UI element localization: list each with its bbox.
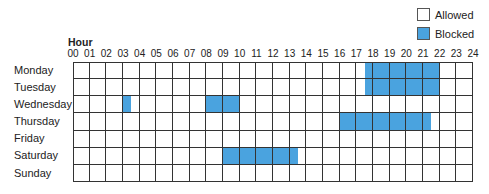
- hour-cell[interactable]: [456, 62, 473, 79]
- hour-cell[interactable]: [356, 131, 373, 148]
- hour-cell[interactable]: [373, 148, 390, 165]
- hour-cell[interactable]: [340, 113, 357, 130]
- hour-cell[interactable]: [340, 165, 357, 182]
- hour-cell[interactable]: [390, 79, 407, 96]
- hour-cell[interactable]: [256, 96, 273, 113]
- hour-cell[interactable]: [90, 148, 107, 165]
- hour-cell[interactable]: [256, 113, 273, 130]
- hour-cell[interactable]: [456, 79, 473, 96]
- hour-cell[interactable]: [240, 96, 257, 113]
- hour-cell[interactable]: [340, 131, 357, 148]
- hour-cell[interactable]: [290, 131, 307, 148]
- hour-cell[interactable]: [156, 79, 173, 96]
- hour-cell[interactable]: [406, 79, 423, 96]
- hour-cell[interactable]: [273, 148, 290, 165]
- hour-cell[interactable]: [190, 96, 207, 113]
- hour-cell[interactable]: [206, 62, 223, 79]
- hour-cell[interactable]: [223, 148, 240, 165]
- hour-cell[interactable]: [406, 96, 423, 113]
- hour-cell[interactable]: [190, 131, 207, 148]
- hour-cell[interactable]: [73, 165, 90, 182]
- hour-cell[interactable]: [240, 79, 257, 96]
- hour-cell[interactable]: [440, 131, 457, 148]
- hour-cell[interactable]: [106, 165, 123, 182]
- hour-cell[interactable]: [356, 62, 373, 79]
- hour-cell[interactable]: [456, 96, 473, 113]
- hour-cell[interactable]: [323, 131, 340, 148]
- hour-cell[interactable]: [290, 165, 307, 182]
- hour-cell[interactable]: [90, 131, 107, 148]
- hour-cell[interactable]: [290, 113, 307, 130]
- hour-cell[interactable]: [423, 148, 440, 165]
- hour-cell[interactable]: [323, 96, 340, 113]
- hour-cell[interactable]: [273, 131, 290, 148]
- hour-cell[interactable]: [323, 113, 340, 130]
- hour-cell[interactable]: [390, 62, 407, 79]
- hour-cell[interactable]: [390, 165, 407, 182]
- hour-cell[interactable]: [406, 62, 423, 79]
- hour-cell[interactable]: [440, 79, 457, 96]
- hour-cell[interactable]: [206, 131, 223, 148]
- hour-cell[interactable]: [123, 62, 140, 79]
- hour-cell[interactable]: [73, 113, 90, 130]
- hour-cell[interactable]: [90, 113, 107, 130]
- hour-cell[interactable]: [190, 79, 207, 96]
- hour-cell[interactable]: [306, 148, 323, 165]
- legend-allowed[interactable]: Allowed: [417, 6, 474, 23]
- hour-cell[interactable]: [456, 165, 473, 182]
- hour-cell[interactable]: [106, 96, 123, 113]
- hour-cell[interactable]: [90, 79, 107, 96]
- hour-cell[interactable]: [306, 131, 323, 148]
- hour-cell[interactable]: [190, 165, 207, 182]
- hour-cell[interactable]: [290, 96, 307, 113]
- hour-cell[interactable]: [390, 113, 407, 130]
- hour-cell[interactable]: [123, 165, 140, 182]
- hour-cell[interactable]: [256, 62, 273, 79]
- hour-cell[interactable]: [273, 62, 290, 79]
- hour-cell[interactable]: [373, 79, 390, 96]
- hour-cell[interactable]: [156, 131, 173, 148]
- hour-cell[interactable]: [323, 62, 340, 79]
- hour-cell[interactable]: [406, 148, 423, 165]
- hour-cell[interactable]: [73, 79, 90, 96]
- hour-cell[interactable]: [456, 148, 473, 165]
- hour-cell[interactable]: [440, 165, 457, 182]
- hour-cell[interactable]: [323, 79, 340, 96]
- hour-cell[interactable]: [440, 96, 457, 113]
- hour-cell[interactable]: [106, 79, 123, 96]
- hour-cell[interactable]: [273, 96, 290, 113]
- hour-cell[interactable]: [223, 131, 240, 148]
- hour-cell[interactable]: [140, 62, 157, 79]
- hour-cell[interactable]: [440, 148, 457, 165]
- hour-cell[interactable]: [273, 165, 290, 182]
- hour-cell[interactable]: [106, 131, 123, 148]
- hour-cell[interactable]: [256, 79, 273, 96]
- hour-cell[interactable]: [206, 165, 223, 182]
- hour-cell[interactable]: [123, 79, 140, 96]
- hour-cell[interactable]: [406, 165, 423, 182]
- hour-cell[interactable]: [440, 113, 457, 130]
- hour-cell[interactable]: [423, 96, 440, 113]
- hour-cell[interactable]: [190, 148, 207, 165]
- hour-cell[interactable]: [423, 79, 440, 96]
- hour-cell[interactable]: [340, 62, 357, 79]
- hour-cell[interactable]: [306, 62, 323, 79]
- hour-cell[interactable]: [423, 62, 440, 79]
- hour-cell[interactable]: [223, 165, 240, 182]
- hour-cell[interactable]: [140, 113, 157, 130]
- hour-cell[interactable]: [356, 79, 373, 96]
- schedule-grid[interactable]: [73, 62, 473, 182]
- hour-cell[interactable]: [290, 79, 307, 96]
- hour-cell[interactable]: [273, 113, 290, 130]
- hour-cell[interactable]: [390, 131, 407, 148]
- hour-cell[interactable]: [206, 148, 223, 165]
- hour-cell[interactable]: [90, 96, 107, 113]
- hour-cell[interactable]: [240, 113, 257, 130]
- hour-cell[interactable]: [240, 148, 257, 165]
- hour-cell[interactable]: [423, 165, 440, 182]
- hour-cell[interactable]: [73, 131, 90, 148]
- hour-cell[interactable]: [456, 113, 473, 130]
- hour-cell[interactable]: [356, 113, 373, 130]
- hour-cell[interactable]: [190, 62, 207, 79]
- hour-cell[interactable]: [206, 79, 223, 96]
